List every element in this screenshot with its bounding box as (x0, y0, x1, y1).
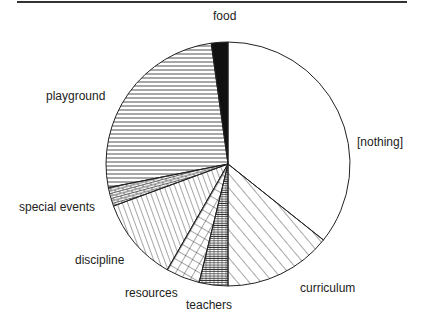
pie-slice-playground (106, 43, 228, 187)
label-special-events: special events (19, 200, 95, 214)
label-playground: playground (46, 89, 105, 103)
label-teachers: teachers (186, 298, 232, 312)
label-nothing: [nothing] (357, 135, 403, 149)
label-food: food (213, 9, 236, 23)
label-discipline: discipline (75, 253, 124, 267)
label-curriculum: curriculum (300, 281, 355, 295)
label-resources: resources (125, 286, 178, 300)
pie-chart (0, 0, 422, 324)
